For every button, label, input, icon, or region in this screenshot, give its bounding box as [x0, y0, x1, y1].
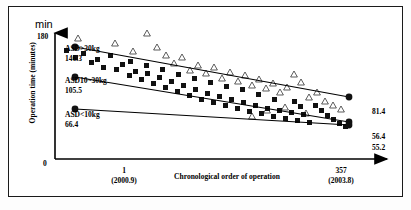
group-start-value: 146.3 — [65, 55, 100, 63]
group-label-asd-under-10kg: ASD<10kg 66.4 — [65, 111, 100, 129]
figure-frame: min 180 0 Operation time (minutes) ASD>3… — [8, 6, 403, 197]
x-axis-title: Chronological order of operation — [137, 173, 317, 181]
group-label-asd-10-30kg: ASD10~30kg 105.5 — [65, 77, 107, 95]
group-label-text: ASD>30kg — [65, 44, 100, 53]
y-axis-min-label: 0 — [43, 160, 47, 168]
x-tick-right: 357 (2003.8) — [318, 167, 364, 185]
y-axis-title: Operation time (minutes) — [29, 37, 37, 129]
x-tick-right-date: (2003.8) — [318, 177, 364, 185]
figure-container: min 180 0 Operation time (minutes) ASD>3… — [0, 0, 411, 210]
group-label-text: ASD10~30kg — [65, 76, 107, 85]
end-value-asd-over-30kg: 81.4 — [372, 108, 385, 116]
series-open-triangles — [75, 30, 345, 119]
group-label-asd-over-30kg: ASD>30kg 146.3 — [65, 45, 100, 63]
group-start-value: 105.5 — [65, 87, 107, 95]
y-axis-unit: min — [35, 19, 53, 30]
x-tick-right-value: 357 — [335, 166, 346, 175]
x-tick-left-value: 1 — [122, 166, 126, 175]
group-start-value: 66.4 — [65, 121, 100, 129]
y-axis-max-label: 180 — [37, 33, 48, 41]
end-value-asd-under-10kg: 55.2 — [372, 144, 385, 152]
group-label-text: ASD<10kg — [65, 110, 100, 119]
end-value-asd-10-30kg: 56.4 — [372, 133, 385, 141]
trend-line-asd-over-30kg — [72, 44, 353, 101]
